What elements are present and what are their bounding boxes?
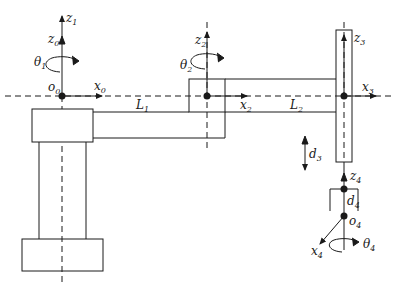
link-l2-label: L2 (289, 98, 303, 114)
z3-label: z3 (353, 31, 365, 47)
gripper-top-dot (341, 186, 348, 193)
x2-label: x2 (240, 98, 252, 114)
d3-label: d3 (309, 147, 322, 163)
theta4-rotation-arrowhead (352, 238, 359, 246)
z0-arrowhead (59, 36, 65, 44)
x3-label: x3 (362, 80, 374, 96)
joint-2-dot (204, 93, 211, 100)
theta1-rotation-icon (46, 57, 76, 72)
o0-label: o0 (48, 80, 60, 96)
theta4-rotation-icon (329, 239, 356, 252)
z1-label: z1 (65, 11, 77, 27)
z4-label: z4 (349, 169, 361, 185)
x4-label: x4 (311, 244, 323, 260)
joint-3-dot (341, 93, 348, 100)
link-l1-label: L1 (135, 98, 149, 114)
scara-diagram: z1 z0 θ1 o0 x0 L1 z2 θ2 x2 L2 z3 x3 d3 z… (0, 0, 399, 297)
theta2-rotation-arrowhead (217, 53, 224, 62)
theta2-rotation-icon (191, 54, 221, 69)
theta1-label: θ1 (34, 55, 46, 71)
z2-label: z2 (194, 33, 206, 49)
d3-arrowhead-top (302, 136, 308, 144)
z4-arrowhead (341, 173, 347, 181)
theta2-label: θ2 (180, 58, 192, 74)
theta1-rotation-arrowhead (72, 56, 79, 65)
x4-axis-arrow (320, 216, 344, 244)
joint-o4-dot (341, 213, 348, 220)
theta4-label: θ4 (363, 237, 375, 253)
shoulder-block (32, 109, 93, 142)
z0-label: z0 (47, 32, 59, 48)
o4-label: o4 (349, 214, 361, 230)
x0-label: x0 (94, 79, 106, 95)
